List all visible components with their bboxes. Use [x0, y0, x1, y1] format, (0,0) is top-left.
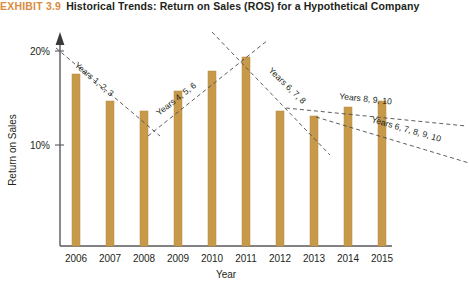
bar-2011 [242, 57, 250, 246]
x-tick-label-2015: 2015 [371, 253, 394, 264]
y-tick-label-20: 20% [30, 46, 50, 57]
x-tick-labels: 2006 2007 2008 2009 2010 2011 2012 2013 … [65, 253, 394, 264]
x-tick-label-2012: 2012 [269, 253, 292, 264]
bar-2006 [72, 74, 80, 246]
trend-label-3: Years 6, 7, 8 [267, 65, 309, 106]
exhibit-figure: EXHIBIT 3.9Historical Trends: Return on … [0, 0, 469, 281]
bar-2007 [106, 101, 114, 246]
bar-series [72, 57, 386, 246]
y-axis [55, 32, 64, 246]
x-tick-label-2014: 2014 [337, 253, 360, 264]
y-axis-title: Return on Sales [7, 114, 18, 186]
trend-lines [56, 32, 469, 163]
bar-2008 [140, 111, 148, 246]
bar-2012 [276, 111, 284, 246]
x-tick-label-2006: 2006 [65, 253, 88, 264]
x-tick-label-2009: 2009 [167, 253, 190, 264]
x-tick-label-2011: 2011 [235, 253, 257, 264]
bar-2009 [174, 91, 182, 246]
trend-label-4: Years 8, 9, 10 [339, 91, 393, 106]
chart-plot-area: 20% 10% Return on Sales [0, 0, 469, 281]
x-tick-label-2013: 2013 [303, 253, 326, 264]
bar-2010 [208, 71, 216, 246]
x-tick-label-2007: 2007 [99, 253, 122, 264]
x-tick-label-2008: 2008 [133, 253, 156, 264]
x-axis-title: Year [216, 269, 237, 280]
y-tick-label-10: 10% [30, 140, 50, 151]
x-tick-label-2010: 2010 [201, 253, 224, 264]
